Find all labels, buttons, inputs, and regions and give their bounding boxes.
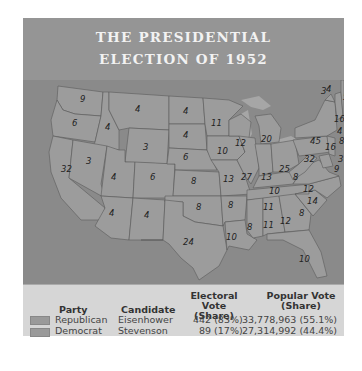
svg-text:5: 5	[343, 92, 344, 102]
svg-text:4: 4	[135, 104, 140, 114]
map-title: THE PRESIDENTIAL ELECTION OF 1952	[23, 18, 344, 80]
svg-text:16: 16	[334, 114, 344, 124]
svg-text:9: 9	[80, 94, 85, 104]
svg-text:4: 4	[109, 208, 114, 218]
svg-text:3: 3	[143, 142, 148, 152]
svg-text:12: 12	[303, 184, 314, 194]
svg-text:10: 10	[217, 146, 228, 156]
svg-text:13: 13	[261, 172, 272, 182]
svg-text:45: 45	[310, 136, 321, 146]
title-line-1: THE PRESIDENTIAL	[23, 26, 344, 48]
header-popular-vote: Popular Vote (Share)	[263, 291, 339, 311]
svg-text:8: 8	[247, 222, 253, 232]
party-democrat: Democrat	[55, 325, 102, 336]
svg-text:10: 10	[299, 254, 310, 264]
svg-text:4: 4	[337, 126, 342, 136]
popular-republican: 33,778,963 (55.1%)	[242, 314, 337, 325]
svg-text:16: 16	[325, 142, 336, 152]
party-republican: Republican	[55, 314, 107, 325]
svg-text:32: 32	[304, 154, 315, 164]
svg-text:4: 4	[183, 130, 188, 140]
candidate-stevenson: Stevenson	[118, 325, 168, 336]
svg-text:11: 11	[263, 220, 274, 230]
svg-text:12: 12	[235, 138, 246, 148]
svg-text:8: 8	[293, 172, 299, 182]
svg-text:8: 8	[228, 200, 234, 210]
svg-text:6: 6	[72, 118, 78, 128]
svg-text:4: 4	[183, 106, 188, 116]
svg-text:9: 9	[334, 164, 339, 174]
svg-text:11: 11	[211, 118, 222, 128]
svg-text:8: 8	[191, 176, 197, 186]
electoral-democrat: 89 (17%)	[199, 325, 243, 336]
svg-text:3: 3	[338, 154, 343, 164]
electoral-republican: 442 (83%)	[193, 314, 243, 325]
svg-text:10: 10	[226, 232, 237, 242]
svg-text:3: 3	[86, 156, 91, 166]
svg-text:10: 10	[269, 186, 280, 196]
democrat-swatch	[30, 328, 50, 337]
svg-text:27: 27	[241, 172, 252, 182]
svg-text:32: 32	[61, 164, 72, 174]
svg-text:4: 4	[326, 84, 331, 94]
svg-text:25: 25	[279, 164, 290, 174]
svg-text:14: 14	[307, 196, 318, 206]
svg-text:4: 4	[144, 210, 149, 220]
us-map: 9 6 32 4 3 4 3 4 6 4 4 4 4 6 8 8 24 11 1…	[23, 80, 344, 284]
svg-text:6: 6	[183, 152, 189, 162]
candidate-eisenhower: Eisenhower	[118, 314, 173, 325]
svg-text:13: 13	[223, 174, 234, 184]
map-figure: THE PRESIDENTIAL ELECTION OF 1952	[23, 18, 344, 335]
svg-text:12: 12	[280, 216, 291, 226]
svg-text:4: 4	[111, 172, 116, 182]
svg-text:6: 6	[150, 172, 156, 182]
svg-text:8: 8	[299, 208, 305, 218]
popular-democrat: 27,314,992 (44.4%)	[242, 325, 337, 336]
svg-text:4: 4	[105, 122, 110, 132]
svg-text:20: 20	[261, 134, 272, 144]
svg-text:8: 8	[196, 202, 202, 212]
republican-swatch	[30, 316, 50, 325]
us-map-svg: 9 6 32 4 3 4 3 4 6 4 4 4 4 6 8 8 24 11 1…	[23, 80, 344, 284]
svg-text:11: 11	[263, 202, 274, 212]
svg-text:24: 24	[183, 237, 194, 247]
results-legend-table: Party Candidate Electoral Vote (Share) P…	[23, 284, 344, 336]
title-line-2: ELECTION OF 1952	[23, 48, 344, 70]
svg-text:8: 8	[339, 136, 344, 146]
